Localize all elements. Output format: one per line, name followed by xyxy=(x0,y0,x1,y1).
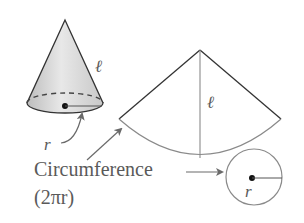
cone-figure: ℓ r xyxy=(27,20,103,154)
sector-figure: ℓ xyxy=(119,50,281,158)
circumference-arrow-to-arc xyxy=(87,129,121,160)
circumference-annotation: Circumference (2πr) xyxy=(34,129,222,209)
base-circle-radius-label: r xyxy=(245,182,252,201)
cone-surface-area-diagram: ℓ r ℓ Circumference (2πr) r xyxy=(0,0,304,223)
sector-slant-label: ℓ xyxy=(207,93,214,112)
circumference-formula: (2πr) xyxy=(34,186,74,209)
sector-left-edge xyxy=(119,50,200,119)
circumference-label: Circumference xyxy=(34,158,153,180)
cone-radius-label: r xyxy=(44,135,51,154)
base-circle-figure: r xyxy=(226,149,282,205)
cone-slant-label: ℓ xyxy=(95,57,102,76)
radius-pointer-arrow xyxy=(61,114,82,143)
cone-body xyxy=(27,20,103,113)
